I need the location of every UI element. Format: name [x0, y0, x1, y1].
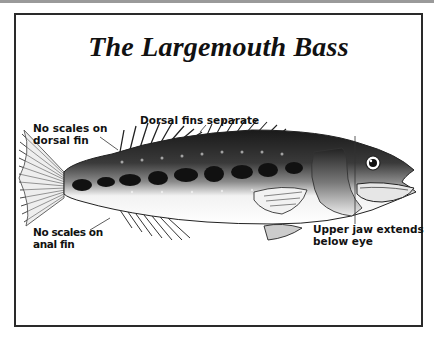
label-line-1: No scales on: [33, 122, 108, 134]
mouth: [357, 183, 414, 202]
label-line-2: anal fin: [33, 238, 103, 250]
label-line-1: No scales on: [33, 226, 103, 238]
diagram-frame: The Largemouth Bass: [14, 13, 423, 327]
top-border-bar: [0, 0, 434, 3]
label-line-2: dorsal fin: [33, 134, 108, 146]
label-dorsal-fins-separate: Dorsal fins separate: [140, 114, 259, 126]
label-line-1: Upper jaw extends: [313, 223, 424, 235]
largemouth-bass-illustration: [16, 15, 421, 325]
label-no-scales-anal: No scales on anal fin: [33, 226, 103, 250]
eye: [366, 156, 380, 170]
pelvic-fin: [264, 224, 302, 240]
label-upper-jaw: Upper jaw extends below eye: [313, 223, 424, 247]
label-no-scales-dorsal: No scales on dorsal fin: [33, 122, 108, 146]
label-line-2: below eye: [313, 235, 424, 247]
label-text: Dorsal fins separate: [140, 114, 259, 126]
